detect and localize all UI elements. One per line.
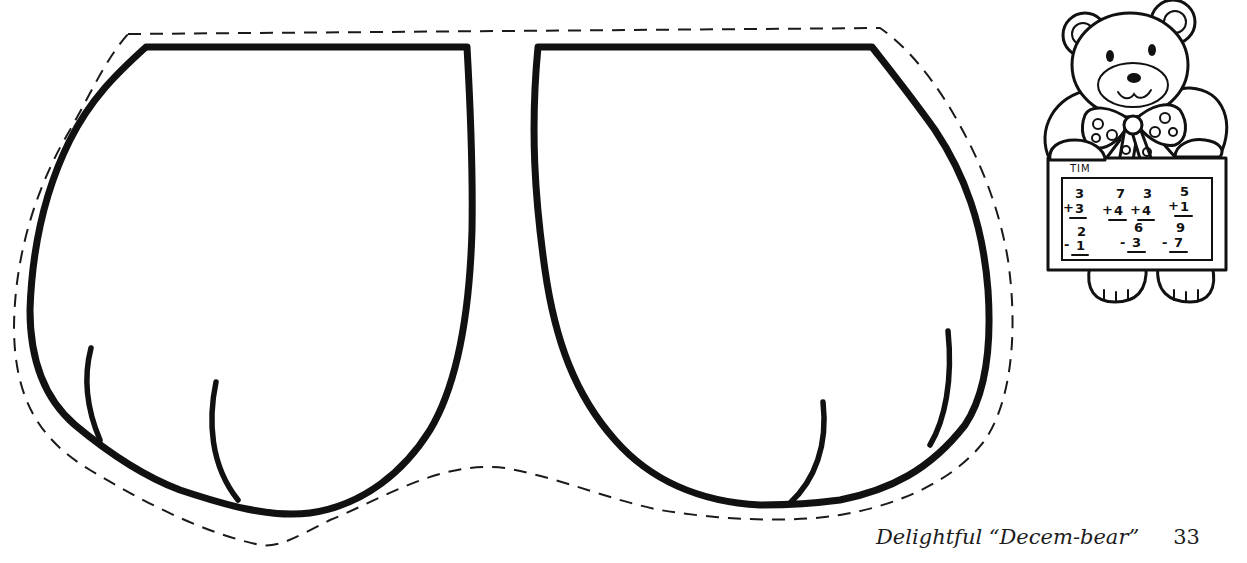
svg-text:7: 7 bbox=[1174, 235, 1183, 250]
bear-head bbox=[1072, 13, 1188, 117]
svg-text:1: 1 bbox=[1076, 238, 1085, 253]
page-footer: Delightful “Decem-bear” 33 bbox=[876, 525, 1200, 559]
page-number: 33 bbox=[1173, 525, 1200, 549]
svg-text:-: - bbox=[1162, 235, 1167, 250]
svg-text:1: 1 bbox=[1180, 199, 1189, 214]
svg-text:3: 3 bbox=[1132, 235, 1141, 250]
svg-text:+: + bbox=[1168, 198, 1179, 213]
right-thumb-line-1 bbox=[790, 402, 824, 503]
svg-text:+: + bbox=[1102, 202, 1113, 217]
svg-text:2: 2 bbox=[1077, 224, 1086, 239]
svg-text:3: 3 bbox=[1075, 186, 1084, 201]
bear-left-eye bbox=[1106, 50, 1114, 62]
svg-text:6: 6 bbox=[1134, 220, 1143, 235]
svg-text:+: + bbox=[1063, 200, 1074, 215]
svg-text:3: 3 bbox=[1143, 186, 1152, 201]
footer-title: Delightful “Decem-bear” bbox=[876, 525, 1139, 549]
svg-text:-: - bbox=[1064, 237, 1069, 252]
left-mitten bbox=[30, 47, 472, 514]
bear-right-eye bbox=[1148, 44, 1156, 56]
left-thumb-line-1 bbox=[87, 348, 100, 440]
svg-text:7: 7 bbox=[1116, 186, 1125, 201]
svg-text:+: + bbox=[1130, 202, 1141, 217]
svg-text:-: - bbox=[1120, 235, 1125, 250]
right-thumb-line-2 bbox=[930, 331, 949, 445]
left-thumb-line-2 bbox=[212, 382, 238, 500]
board-name: TIM bbox=[1069, 163, 1091, 174]
svg-text:4: 4 bbox=[1142, 203, 1151, 218]
cut-line bbox=[14, 28, 1013, 545]
svg-text:4: 4 bbox=[1114, 203, 1123, 218]
svg-text:9: 9 bbox=[1176, 220, 1185, 235]
right-mitten-outline bbox=[534, 47, 989, 505]
bear-nose bbox=[1127, 73, 1141, 83]
teddy-bear-illustration: TIM 3 + 3 7 + 4 3 + 4 5 + 1 2 - 1 bbox=[1045, 0, 1227, 302]
svg-text:3: 3 bbox=[1075, 201, 1084, 216]
left-mitten-outline bbox=[30, 47, 472, 514]
pattern-canvas: TIM 3 + 3 7 + 4 3 + 4 5 + 1 2 - 1 bbox=[0, 0, 1247, 563]
svg-text:5: 5 bbox=[1180, 184, 1189, 199]
right-mitten bbox=[534, 47, 989, 505]
